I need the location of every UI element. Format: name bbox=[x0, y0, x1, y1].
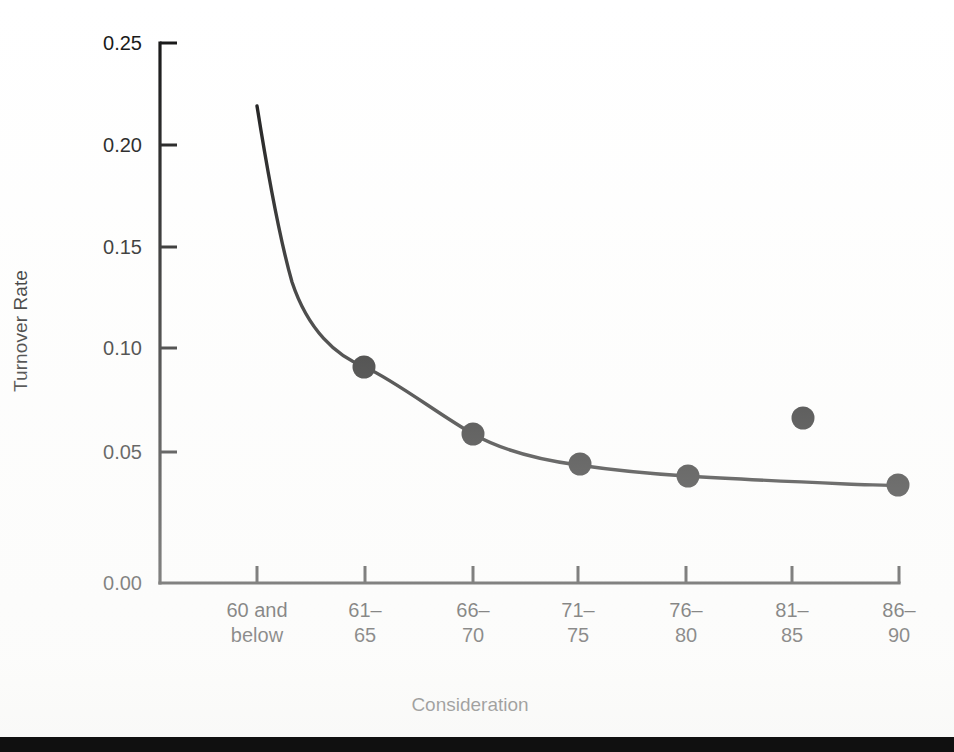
x-axis-title: Consideration bbox=[340, 694, 600, 716]
page-footer-bar bbox=[0, 737, 954, 752]
data-point-76-80 bbox=[677, 465, 700, 488]
data-point-markers bbox=[353, 356, 910, 497]
y-tick-label-0.00: 0.00 bbox=[72, 573, 142, 593]
x-tick-label-71-75: 71– 75 bbox=[518, 598, 638, 648]
x-tick-label-76-80: 76– 80 bbox=[626, 598, 746, 648]
data-point-61-65 bbox=[353, 356, 376, 379]
data-point-71-75 bbox=[569, 453, 592, 476]
x-axis-ticks bbox=[257, 566, 899, 583]
y-tick-label-0.25: 0.25 bbox=[72, 33, 142, 53]
chart-figure: 0.25 0.20 0.15 0.10 0.05 0.00 60 and bel… bbox=[0, 0, 954, 752]
data-point-66-70 bbox=[462, 423, 485, 446]
x-tick-label-61-65: 61– 65 bbox=[305, 598, 425, 648]
y-tick-label-0.20: 0.20 bbox=[72, 135, 142, 155]
x-tick-label-81-85: 81– 85 bbox=[732, 598, 852, 648]
data-point-86-90 bbox=[887, 474, 910, 497]
x-tick-label-66-70: 66– 70 bbox=[413, 598, 533, 648]
y-axis-title: Turnover Rate bbox=[10, 236, 40, 426]
y-tick-label-0.15: 0.15 bbox=[72, 237, 142, 257]
y-tick-label-0.10: 0.10 bbox=[72, 338, 142, 358]
y-tick-label-0.05: 0.05 bbox=[72, 442, 142, 462]
x-tick-label-60-and-below: 60 and below bbox=[197, 598, 317, 648]
y-axis-ticks bbox=[160, 43, 177, 452]
x-tick-label-86-90: 86– 90 bbox=[839, 598, 954, 648]
data-point-81-85 bbox=[792, 407, 815, 430]
